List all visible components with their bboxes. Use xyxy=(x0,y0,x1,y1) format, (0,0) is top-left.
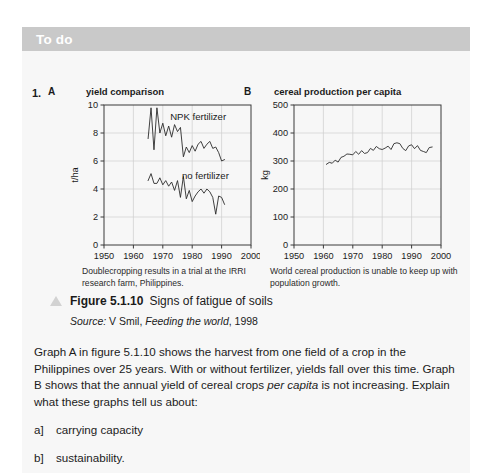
list-item-marker: b] xyxy=(34,450,56,467)
svg-text:10: 10 xyxy=(88,100,98,110)
svg-text:kg: kg xyxy=(260,170,270,180)
svg-text:1980: 1980 xyxy=(372,251,392,261)
svg-text:1990: 1990 xyxy=(211,251,231,261)
question-body: Graph A in figure 5.1.10 shows the harve… xyxy=(34,344,459,466)
svg-text:500: 500 xyxy=(273,100,288,110)
svg-text:t/ha: t/ha xyxy=(70,166,80,182)
paragraph-italic: per capita xyxy=(267,378,318,391)
figure-source-author: V Smil, xyxy=(106,315,145,327)
svg-text:1990: 1990 xyxy=(401,251,421,261)
todo-card-title: To do xyxy=(36,32,73,47)
figure-source-label: Source: xyxy=(70,315,106,327)
figure-source-year: , 1998 xyxy=(229,315,258,327)
figure-label: Figure 5.1.10 xyxy=(70,294,143,308)
svg-text:1960: 1960 xyxy=(313,251,333,261)
chart-b-plot: 0100200300400500195019601970198019902000… xyxy=(244,97,470,265)
svg-text:0: 0 xyxy=(93,240,98,250)
chart-a-title: yield comparison xyxy=(86,86,164,97)
chart-b-letter: B xyxy=(244,86,251,97)
svg-text:4: 4 xyxy=(93,184,98,194)
figure-caption: Figure 5.1.10 Signs of fatigue of soils … xyxy=(50,294,460,327)
svg-text:2000: 2000 xyxy=(431,251,451,261)
svg-text:8: 8 xyxy=(93,128,98,138)
svg-text:1950: 1950 xyxy=(94,251,114,261)
svg-text:6: 6 xyxy=(93,156,98,166)
figure-source: Source: V Smil, Feeding the world, 1998 xyxy=(70,315,460,327)
svg-text:1950: 1950 xyxy=(284,251,304,261)
svg-text:no fertilizer: no fertilizer xyxy=(182,170,230,181)
chart-a-letter: A xyxy=(48,86,55,97)
triangle-up-icon xyxy=(50,296,62,306)
figure-source-work: Feeding the world xyxy=(145,315,228,327)
todo-card-header: To do xyxy=(22,27,470,51)
list-item-label: carrying capacity xyxy=(56,422,143,439)
svg-text:1960: 1960 xyxy=(123,251,143,261)
svg-text:1980: 1980 xyxy=(182,251,202,261)
svg-text:1970: 1970 xyxy=(343,251,363,261)
svg-text:NPK fertilizer: NPK fertilizer xyxy=(170,111,227,122)
svg-text:400: 400 xyxy=(273,128,288,138)
todo-card: To do 1. A yield comparison 024681019501… xyxy=(22,27,470,473)
list-item-label: sustainability. xyxy=(56,450,125,467)
svg-text:0: 0 xyxy=(283,240,288,250)
question-paragraph: Graph A in figure 5.1.10 shows the harve… xyxy=(34,344,459,410)
list-item-marker: a] xyxy=(34,422,56,439)
svg-text:2: 2 xyxy=(93,212,98,222)
figure-5-1-10: A yield comparison 024681019501960197019… xyxy=(22,81,470,291)
chart-b-caption: World cereal production is unable to kee… xyxy=(270,265,460,289)
screenshot-page: To do 1. A yield comparison 024681019501… xyxy=(0,0,492,473)
todo-card-body: 1. A yield comparison 024681019501960197… xyxy=(22,51,470,473)
question-sub-items: a] carrying capacity b] sustainability. xyxy=(34,422,459,466)
chart-a-plot: 0246810195019601970198019902000t/haNPK f… xyxy=(48,97,260,265)
svg-text:300: 300 xyxy=(273,156,288,166)
chart-b-title: cereal production per capita xyxy=(274,86,401,97)
chart-a-caption: Doublecropping results in a trial at the… xyxy=(82,265,272,289)
svg-text:1970: 1970 xyxy=(153,251,173,261)
svg-text:200: 200 xyxy=(273,184,288,194)
svg-text:100: 100 xyxy=(273,212,288,222)
figure-title: Signs of fatigue of soils xyxy=(149,294,272,308)
list-item: a] carrying capacity xyxy=(34,422,459,439)
list-item: b] sustainability. xyxy=(34,450,459,467)
